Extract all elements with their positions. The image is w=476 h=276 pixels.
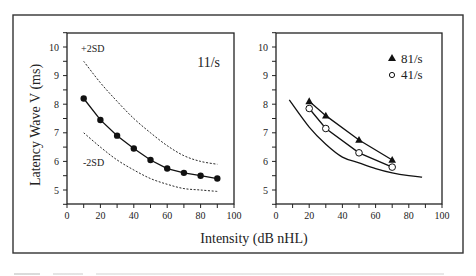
data-point bbox=[306, 105, 313, 112]
data-point bbox=[164, 165, 170, 171]
lower-sd-label: -2SD bbox=[83, 157, 104, 168]
figure-canvas: 0204060801005678910 0204060801005678910 … bbox=[0, 0, 476, 276]
upper-sd-label: +2SD bbox=[81, 43, 104, 54]
y-tick-label: 6 bbox=[54, 156, 59, 167]
y-tick-label: 5 bbox=[263, 185, 268, 196]
y-tick-label: 10 bbox=[49, 42, 59, 53]
figure-caption-clipped bbox=[14, 268, 464, 276]
data-point bbox=[114, 132, 120, 138]
data-point bbox=[81, 95, 87, 101]
data-point bbox=[181, 170, 187, 176]
x-tick-label: 60 bbox=[371, 210, 381, 221]
y-tick-label: 7 bbox=[54, 127, 59, 138]
data-point bbox=[97, 117, 103, 123]
y-tick-label: 9 bbox=[263, 70, 268, 81]
data-point bbox=[197, 173, 203, 179]
legend-label-81s: 81/s bbox=[401, 51, 423, 66]
x-axis-label: Intensity (dB nHL) bbox=[200, 231, 308, 247]
y-tick-label: 8 bbox=[54, 99, 59, 110]
y-tick-label: 9 bbox=[54, 70, 59, 81]
x-tick-label: 100 bbox=[227, 210, 242, 221]
y-tick-label: 10 bbox=[258, 42, 268, 53]
data-point bbox=[323, 125, 330, 132]
x-tick-label: 80 bbox=[404, 210, 414, 221]
figure: 0204060801005678910 0204060801005678910 … bbox=[0, 0, 476, 276]
data-point bbox=[131, 145, 137, 151]
rate-annotation-11s: 11/s bbox=[197, 55, 220, 70]
x-tick-label: 40 bbox=[129, 210, 139, 221]
x-tick-label: 20 bbox=[304, 210, 314, 221]
y-axis-label: Latency Wave V (ms) bbox=[28, 64, 44, 186]
x-tick-label: 40 bbox=[337, 210, 347, 221]
x-tick-label: 20 bbox=[95, 210, 105, 221]
legend-label-41s: 41/s bbox=[401, 67, 423, 82]
y-tick-label: 5 bbox=[54, 185, 59, 196]
x-tick-label: 0 bbox=[65, 210, 70, 221]
data-point bbox=[356, 150, 363, 157]
y-tick-label: 6 bbox=[263, 156, 268, 167]
y-tick-label: 8 bbox=[263, 99, 268, 110]
data-point bbox=[214, 175, 220, 181]
x-tick-label: 100 bbox=[435, 210, 450, 221]
x-tick-label: 60 bbox=[162, 210, 172, 221]
y-tick-label: 7 bbox=[263, 127, 268, 138]
data-point bbox=[147, 157, 153, 163]
x-tick-label: 80 bbox=[196, 210, 206, 221]
open-circle-marker-icon bbox=[389, 72, 394, 77]
data-point bbox=[389, 164, 396, 171]
x-tick-label: 0 bbox=[274, 210, 279, 221]
